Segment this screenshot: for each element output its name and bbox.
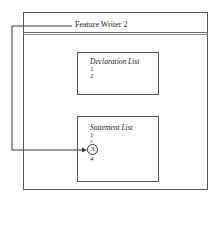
declaration-item: 2 [90,73,94,80]
declaration-list-title: Declaration List [90,57,139,66]
highlighted-statement-item: 3 [87,144,98,155]
statement-item: 4 [90,156,94,163]
statement-list-title: Statement List [90,123,133,132]
